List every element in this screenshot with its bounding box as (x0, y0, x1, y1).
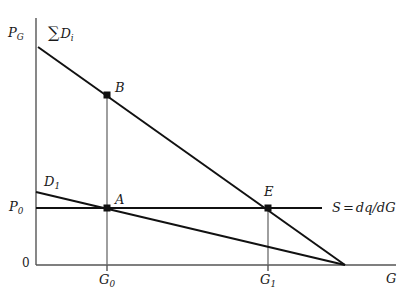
summation-icon: ∑ (48, 23, 60, 42)
aggregate-demand-curve-label: ∑Di (48, 25, 74, 41)
aggregate-demand-curve-line (38, 47, 345, 265)
economics-diagram: PG G 0 G0 G1 P0 ∑Di D1 S=dq/dG B A E (0, 0, 410, 300)
x-axis-label: G (386, 272, 396, 285)
point-marker-b (104, 92, 111, 99)
point-marker-a (104, 205, 111, 212)
point-marker-e (265, 205, 272, 212)
supply-curve-label: S=dq/dG (332, 201, 396, 214)
origin-label: 0 (22, 257, 30, 269)
point-label-e: E (264, 185, 274, 198)
individual-demand-curve-label: D1 (44, 175, 60, 188)
tick-label-p0: P0 (9, 200, 23, 213)
diagram-canvas (0, 0, 410, 300)
point-label-a: A (115, 193, 124, 206)
y-axis-label: PG (8, 26, 24, 39)
individual-demand-curve-line (36, 192, 345, 265)
tick-label-g0: G0 (99, 273, 115, 286)
tick-label-g1: G1 (260, 273, 276, 286)
point-label-b: B (115, 81, 125, 94)
